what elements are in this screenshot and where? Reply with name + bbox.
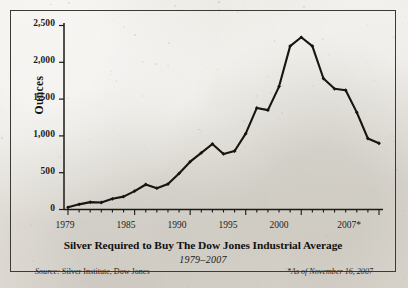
axis-lines [64,23,383,210]
source-label: Source: [35,267,60,276]
source-text: Silver Institute, Dow Jones [62,267,150,276]
chart-figure: Ounces 2,500 2,000 1,500 1,000 500 0 197… [10,10,396,272]
x-axis-ticks [68,210,379,216]
source-note: Source: Silver Institute, Dow Jones [35,267,150,276]
plot-area [11,11,397,273]
footnote-note: *As of November 16, 2007 [287,267,373,276]
data-point-markers [66,35,381,209]
chart-title: Silver Required to Buy The Dow Jones Ind… [11,239,395,251]
data-line [68,37,379,207]
chart-subtitle: 1979–2007 [11,254,395,265]
